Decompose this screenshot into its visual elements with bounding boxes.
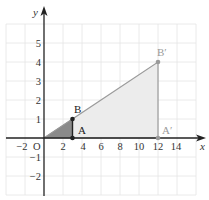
origin-label: O bbox=[33, 141, 41, 152]
point-b-prime bbox=[156, 60, 161, 65]
point-b bbox=[70, 117, 75, 122]
y-tick: 2 bbox=[36, 95, 41, 106]
y-tick-labels: 5 4 3 2 1 −1 −2 bbox=[30, 38, 42, 182]
y-tick: −2 bbox=[30, 171, 41, 182]
x-tick: 12 bbox=[153, 141, 164, 152]
y-axis bbox=[41, 6, 48, 196]
x-axis-label: x bbox=[199, 140, 205, 152]
x-tick: 14 bbox=[171, 141, 182, 152]
y-tick: 1 bbox=[36, 114, 41, 125]
x-tick: −2 bbox=[16, 141, 27, 152]
y-tick: 3 bbox=[36, 76, 41, 87]
point-a-prime bbox=[156, 136, 161, 141]
x-tick-labels: −2 2 4 6 8 10 12 14 bbox=[16, 141, 182, 152]
point-a bbox=[70, 136, 75, 141]
enlargement-diagram: x y O −2 2 4 6 8 10 12 14 5 4 3 2 1 −1 −… bbox=[0, 0, 209, 200]
y-tick: −1 bbox=[30, 152, 41, 163]
y-tick: 5 bbox=[36, 38, 41, 49]
x-tick: 8 bbox=[117, 141, 122, 152]
point-label-b: B bbox=[74, 103, 81, 115]
x-tick: 6 bbox=[98, 141, 103, 152]
point-label-b-prime: B′ bbox=[157, 46, 167, 58]
point-label-a: A bbox=[78, 124, 86, 136]
x-tick: 4 bbox=[80, 141, 86, 152]
x-tick: 10 bbox=[134, 141, 145, 152]
x-tick: 2 bbox=[60, 141, 65, 152]
point-label-a-prime: A′ bbox=[162, 124, 172, 136]
y-tick: 4 bbox=[36, 57, 42, 68]
y-axis-label: y bbox=[32, 6, 38, 18]
